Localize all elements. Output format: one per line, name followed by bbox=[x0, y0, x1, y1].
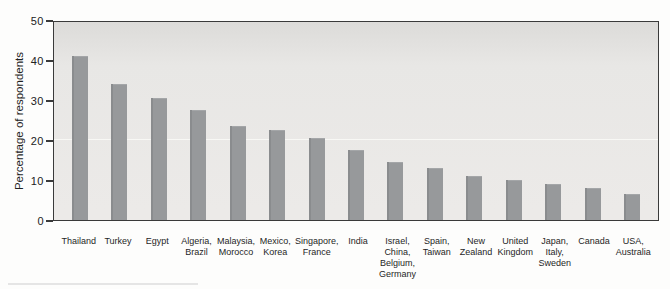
bar-column bbox=[336, 22, 375, 220]
bar bbox=[111, 84, 127, 220]
x-category-label: Thailand bbox=[59, 236, 98, 280]
bar-column bbox=[139, 22, 178, 220]
x-category-label: Canada bbox=[574, 236, 613, 280]
x-category-label: Israel, China, Belgium, Germany bbox=[378, 236, 417, 280]
bar-column bbox=[178, 22, 217, 220]
bars-container bbox=[54, 22, 658, 220]
bar-column bbox=[60, 22, 99, 220]
y-tick-label: 30 bbox=[0, 95, 44, 107]
y-tick-label: 20 bbox=[0, 135, 44, 147]
x-category-label: Egypt bbox=[138, 236, 177, 280]
bar bbox=[151, 98, 167, 220]
y-tick-mark bbox=[46, 140, 53, 142]
x-category-label: Singapore, France bbox=[295, 236, 339, 280]
bar bbox=[545, 184, 561, 220]
bar-column bbox=[297, 22, 336, 220]
y-axis-tick-marks bbox=[46, 21, 53, 221]
x-category-label: Turkey bbox=[98, 236, 137, 280]
bar bbox=[230, 126, 246, 220]
bar-column bbox=[613, 22, 652, 220]
bar-column bbox=[99, 22, 138, 220]
bar bbox=[427, 168, 443, 220]
y-tick-label: 40 bbox=[0, 55, 44, 67]
y-tick-mark bbox=[46, 20, 53, 22]
x-category-label: Algeria, Brazil bbox=[177, 236, 216, 280]
bar-column bbox=[415, 22, 454, 220]
y-axis-tick-labels: 01020304050 bbox=[0, 21, 44, 221]
bar-column bbox=[494, 22, 533, 220]
bar bbox=[585, 188, 601, 220]
x-axis-category-labels: ThailandTurkeyEgyptAlgeria, BrazilMalays… bbox=[53, 236, 659, 280]
bar bbox=[348, 150, 364, 220]
y-tick-label: 10 bbox=[0, 175, 44, 187]
bar bbox=[506, 180, 522, 220]
x-category-label: Malaysia, Morocco bbox=[216, 236, 255, 280]
y-tick-mark bbox=[46, 220, 53, 222]
bar bbox=[309, 138, 325, 220]
bar-column bbox=[376, 22, 415, 220]
bar-chart-figure: Percentage of respondents 01020304050 Th… bbox=[0, 0, 670, 289]
y-tick-mark bbox=[46, 60, 53, 62]
bar-column bbox=[573, 22, 612, 220]
x-category-label: Spain, Taiwan bbox=[417, 236, 456, 280]
y-tick-label: 0 bbox=[0, 215, 44, 227]
y-tick-mark bbox=[46, 180, 53, 182]
bar bbox=[72, 56, 88, 220]
y-tick-mark bbox=[46, 100, 53, 102]
bar-column bbox=[455, 22, 494, 220]
bar bbox=[466, 176, 482, 220]
x-category-label: India bbox=[338, 236, 377, 280]
bar-column bbox=[218, 22, 257, 220]
bar bbox=[190, 110, 206, 220]
bar bbox=[269, 130, 285, 220]
x-category-label: New Zealand bbox=[456, 236, 495, 280]
x-category-label: USA, Australia bbox=[614, 236, 653, 280]
x-category-label: United Kingdom bbox=[496, 236, 535, 280]
bar-column bbox=[534, 22, 573, 220]
y-tick-label: 50 bbox=[0, 15, 44, 27]
bar-column bbox=[257, 22, 296, 220]
plot-area bbox=[53, 21, 659, 221]
scan-artifact-streak bbox=[8, 283, 198, 285]
x-category-label: Japan, Italy, Sweden bbox=[535, 236, 574, 280]
bar bbox=[624, 194, 640, 220]
x-category-label: Mexico, Korea bbox=[256, 236, 295, 280]
bar bbox=[387, 162, 403, 220]
